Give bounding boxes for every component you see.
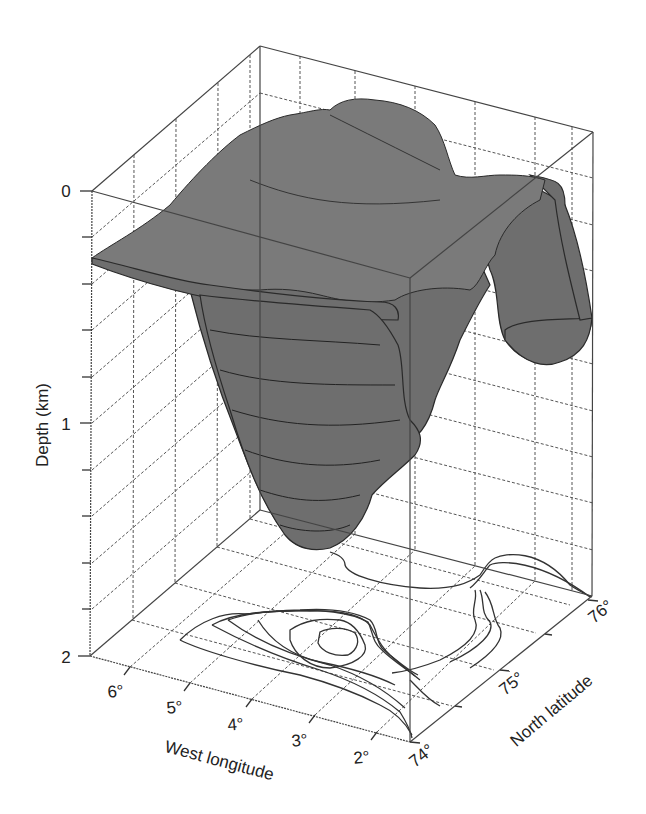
longitude-tick-5: 5° <box>166 697 184 717</box>
longitude-tick-2: 2° <box>353 747 371 767</box>
longitude-axis-label: West longitude <box>163 737 276 784</box>
longitude-axis: 6° 5° 4° 3° 2° West longitude <box>107 667 377 784</box>
longitude-tick-4: 4° <box>227 714 245 734</box>
basin-surface <box>92 99 592 550</box>
longitude-tick-3: 3° <box>291 730 309 750</box>
depth-tick-0: 0 <box>61 182 70 201</box>
surface-plot-canvas: 0 1 2 Depth (km) 6° 5° 4° 3° 2° West lon… <box>0 0 646 814</box>
latitude-tick-75: 75° <box>496 668 528 699</box>
depth-tick-1: 1 <box>61 415 70 434</box>
depth-tick-2: 2 <box>61 648 70 667</box>
latitude-tick-74: 74° <box>406 740 438 771</box>
longitude-tick-6: 6° <box>107 681 125 701</box>
depth-axis-label: Depth (km) <box>33 383 52 467</box>
depth-axis: 0 1 2 Depth (km) <box>33 182 92 667</box>
latitude-axis: 74° 75° 76° North latitude <box>406 596 617 771</box>
latitude-tick-76: 76° <box>585 596 617 627</box>
surface-plot-figure: 0 1 2 Depth (km) 6° 5° 4° 3° 2° West lon… <box>0 0 646 814</box>
floor-grid <box>130 519 570 732</box>
